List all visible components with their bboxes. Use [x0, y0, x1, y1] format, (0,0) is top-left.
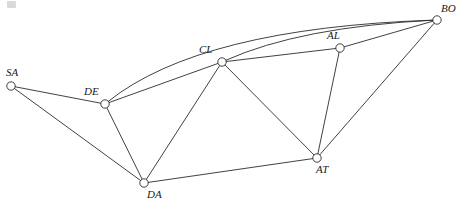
graph-edge-at-da	[148, 159, 313, 183]
graph-node-at[interactable]	[313, 154, 321, 162]
graph-edge-sa-da	[14, 88, 140, 180]
graph-figure: SADECLALBODAAT	[0, 0, 462, 202]
graph-node-al[interactable]	[336, 44, 344, 52]
graph-edge-at-bo	[320, 23, 434, 155]
node-label-bo: BO	[441, 2, 456, 14]
node-label-da: DA	[146, 188, 162, 200]
graph-canvas: SADECLALBODAAT	[0, 0, 462, 202]
graph-edge-cl-da	[146, 66, 219, 180]
graph-node-de[interactable]	[101, 100, 109, 108]
node-label-de: DE	[83, 85, 99, 97]
nodes-layer	[7, 16, 441, 187]
graph-node-cl[interactable]	[218, 58, 226, 66]
graph-edge-al-at	[318, 52, 339, 154]
node-label-at: AT	[315, 163, 329, 175]
edges-layer	[14, 20, 434, 182]
graph-edge-de-bo	[108, 20, 433, 101]
graph-node-bo[interactable]	[433, 16, 441, 24]
node-label-sa: SA	[6, 66, 19, 78]
node-label-al: AL	[326, 29, 340, 41]
node-label-cl: CL	[199, 43, 212, 55]
graph-edge-de-cl	[109, 63, 218, 102]
graph-edge-cl-al	[226, 48, 336, 61]
graph-edge-cl-at	[225, 65, 314, 155]
graph-node-da[interactable]	[140, 179, 148, 187]
graph-node-sa[interactable]	[7, 82, 15, 90]
